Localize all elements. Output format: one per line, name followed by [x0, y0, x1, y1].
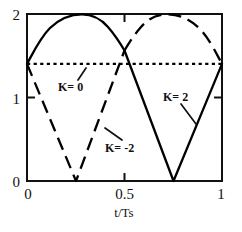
x-tick-label-1: 1 [217, 186, 225, 202]
chart-canvas: 2 1 0 0 0.5 1 t/Ts K= 0 K= -2 K= 2 [0, 0, 242, 232]
series-label-kneg2: K= -2 [105, 141, 134, 155]
x-axis-title: t/Ts [114, 205, 133, 220]
x-tick-label-05: 0.5 [115, 186, 134, 202]
y-tick-label-0: 0 [13, 174, 21, 190]
chart-figure: 2 1 0 0 0.5 1 t/Ts K= 0 K= -2 K= 2 [0, 0, 242, 232]
series-label-k2: K= 2 [163, 90, 188, 104]
series-label-k0: K= 0 [58, 80, 83, 94]
x-tick-label-0: 0 [24, 186, 32, 202]
plot-frame [27, 14, 222, 181]
y-tick-label-1: 1 [13, 91, 21, 107]
y-tick-label-2: 2 [13, 7, 21, 23]
